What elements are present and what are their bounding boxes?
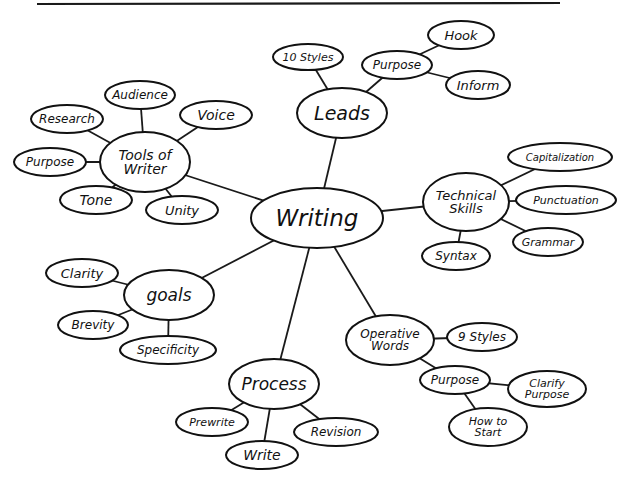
node-label: Writing [276, 205, 359, 231]
node-writing: Writing [251, 188, 383, 248]
node-label: Capitalization [526, 152, 594, 163]
node-label: Purpose [525, 388, 570, 401]
node-label: Prewrite [189, 416, 235, 429]
node-inform: Inform [446, 71, 510, 99]
node-how-to-start: How toStart [449, 408, 527, 446]
node-technical-skills: TechnicalSkills [423, 173, 509, 231]
node-label: Unity [165, 203, 199, 218]
node-punctuation: Punctuation [516, 186, 616, 214]
node-label: Hook [444, 28, 478, 43]
node-label: Voice [197, 107, 235, 123]
node-label: 9 Styles [458, 330, 506, 344]
node-label: Purpose [373, 58, 421, 72]
node-label: Tone [80, 192, 113, 208]
node-label: Punctuation [533, 194, 599, 207]
node-label: Process [241, 374, 306, 394]
node-label: Grammar [522, 236, 576, 249]
node-nine-styles: 9 Styles [447, 323, 517, 351]
node-label: Audience [111, 88, 168, 102]
node-clarity: Clarity [46, 259, 118, 287]
node-capitalization: Capitalization [508, 143, 612, 171]
top-rule-divider [37, 3, 560, 4]
node-research: Research [31, 105, 103, 133]
node-brevity: Brevity [58, 311, 128, 339]
node-label: Clarity [61, 266, 104, 281]
node-revision: Revision [294, 418, 378, 446]
node-label: Research [39, 112, 95, 126]
node-label: Tools of [118, 147, 173, 163]
node-label: Writer [123, 161, 167, 177]
node-label: Specificity [137, 343, 200, 357]
mind-map-canvas: WritingLeads10 StylesPurposeHookInformTo… [0, 0, 618, 481]
node-label: Write [243, 447, 280, 463]
node-prewrite: Prewrite [176, 408, 248, 436]
node-syntax: Syntax [422, 242, 490, 270]
node-operative-purpose: Purpose [420, 366, 490, 394]
node-process: Process [229, 359, 319, 409]
node-hook: Hook [428, 21, 494, 49]
node-grammar: Grammar [513, 228, 583, 256]
node-operative-words: OperativeWords [346, 315, 434, 365]
node-label: Brevity [72, 318, 116, 332]
node-leads-purpose: Purpose [362, 51, 432, 79]
node-label: Words [371, 339, 409, 353]
node-ten-styles: 10 Styles [273, 44, 343, 70]
node-label: Inform [457, 78, 500, 93]
node-goals: goals [124, 270, 214, 320]
node-tools-of-writer: Tools ofWriter [100, 132, 190, 192]
node-clarify-purpose: ClarifyPurpose [508, 371, 586, 407]
node-label: Purpose [26, 155, 74, 169]
node-voice: Voice [180, 101, 252, 129]
node-label: Syntax [435, 249, 477, 263]
node-audience: Audience [105, 81, 175, 109]
node-label: Purpose [431, 373, 479, 387]
node-label: Leads [314, 102, 370, 124]
node-label: goals [146, 285, 191, 305]
node-label: Revision [311, 425, 362, 439]
node-write: Write [226, 441, 298, 469]
node-label: 10 Styles [283, 51, 334, 64]
node-leads: Leads [297, 88, 387, 138]
mind-map-diagram: WritingLeads10 StylesPurposeHookInformTo… [0, 0, 618, 481]
node-label: Start [475, 426, 503, 439]
node-tone: Tone [60, 186, 132, 214]
concept-nodes: WritingLeads10 StylesPurposeHookInformTo… [14, 21, 616, 469]
node-label: Skills [449, 201, 483, 216]
node-tools-purpose: Purpose [14, 148, 86, 176]
node-unity: Unity [146, 196, 218, 224]
node-specificity: Specificity [120, 336, 216, 364]
